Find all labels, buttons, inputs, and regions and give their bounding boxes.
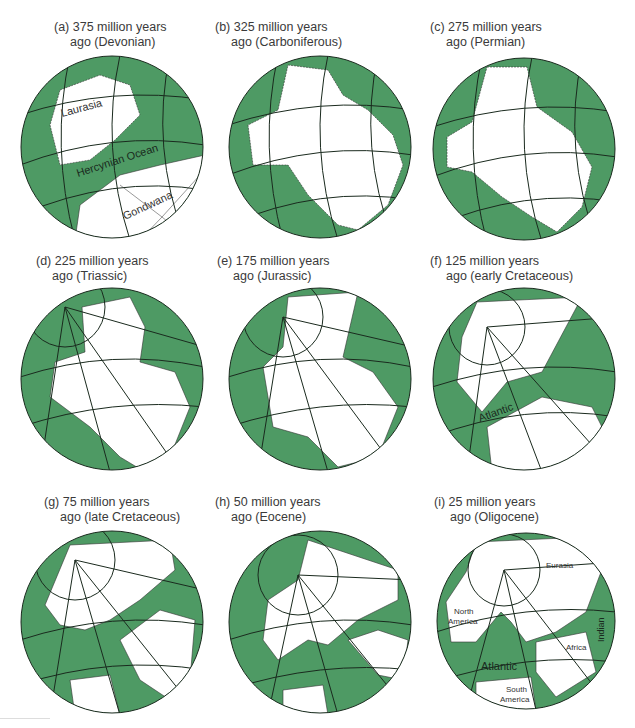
caption-c-line1: (c) 275 million years [430, 20, 542, 34]
label-atlantic-i: Atlantic [481, 660, 518, 672]
footer-divider [0, 718, 50, 719]
caption-f-line1: (f) 125 million years [430, 254, 539, 268]
globe-map-b [228, 55, 413, 240]
caption-a-line1: (a) 375 million years [54, 20, 167, 34]
caption-f: (f) 125 million years ago (early Cretace… [430, 254, 573, 284]
caption-b-line1: (b) 325 million years [215, 20, 328, 34]
panel-g: (g) 75 million years ago (late Cretaceou… [0, 480, 212, 720]
panel-b: (b) 325 million years ago (Carboniferous… [212, 0, 424, 240]
panel-e: (e) 175 million years ago (Jurassic) [212, 240, 424, 480]
panel-h: (h) 50 million years ago (Eocene) [212, 480, 424, 720]
label-eurasia: Eurasia [546, 561, 574, 570]
globe-map-d [20, 287, 205, 472]
caption-c: (c) 275 million years ago (Permian) [430, 20, 542, 50]
globe-map-f: Atlantic [432, 287, 617, 472]
label-indian: Indian [596, 617, 606, 642]
caption-a-line2: ago (Devonian) [54, 35, 167, 50]
panel-c: (c) 275 million years ago (Permian) [424, 0, 635, 240]
caption-g: (g) 75 million years ago (late Cretaceou… [44, 495, 180, 525]
caption-i: (i) 25 million years ago (Oligocene) [434, 495, 539, 525]
caption-i-line2: ago (Oligocene) [434, 510, 539, 525]
caption-h-line1: (h) 50 million years [215, 495, 321, 509]
globe-map-i: Eurasia North America Africa Indian Atla… [436, 532, 616, 710]
caption-e: (e) 175 million years ago (Jurassic) [217, 254, 330, 284]
caption-e-line1: (e) 175 million years [217, 254, 330, 268]
caption-a: (a) 375 million years ago (Devonian) [54, 20, 167, 50]
label-south-america-2: America [500, 695, 530, 704]
globe-map-e [228, 287, 413, 472]
caption-h: (h) 50 million years ago (Eocene) [215, 495, 321, 525]
caption-h-line2: ago (Eocene) [215, 510, 321, 525]
caption-c-line2: ago (Permian) [430, 35, 542, 50]
caption-b-line2: ago (Carboniferous) [215, 35, 342, 50]
panel-f: (f) 125 million years ago (early Cretace… [424, 240, 635, 480]
label-africa: Africa [566, 643, 587, 652]
panel-d: (d) 225 million years ago (Triassic) [0, 240, 212, 480]
globe-map-a: Laurasia Hercynian Ocean Gondwana [20, 55, 205, 240]
caption-f-line2: ago (early Cretaceous) [430, 269, 573, 284]
label-north-america-2: America [448, 617, 478, 626]
panel-a: (a) 375 million years ago (Devonian) Lau… [0, 0, 212, 240]
caption-d-line2: ago (Triassic) [36, 269, 149, 284]
caption-g-line2: ago (late Cretaceous) [44, 510, 180, 525]
caption-i-line1: (i) 25 million years [434, 495, 535, 509]
caption-b: (b) 325 million years ago (Carboniferous… [215, 20, 342, 50]
caption-g-line1: (g) 75 million years [44, 495, 150, 509]
globe-map-c [432, 57, 617, 242]
caption-e-line2: ago (Jurassic) [217, 269, 330, 284]
label-south-america: South [506, 685, 527, 694]
panel-i: (i) 25 million years ago (Oligocene) Eur… [424, 480, 635, 720]
caption-d-line1: (d) 225 million years [36, 254, 149, 268]
caption-d: (d) 225 million years ago (Triassic) [36, 254, 149, 284]
globe-map-g [20, 530, 205, 715]
label-north-america: North [454, 607, 474, 616]
globe-map-h [228, 530, 413, 715]
